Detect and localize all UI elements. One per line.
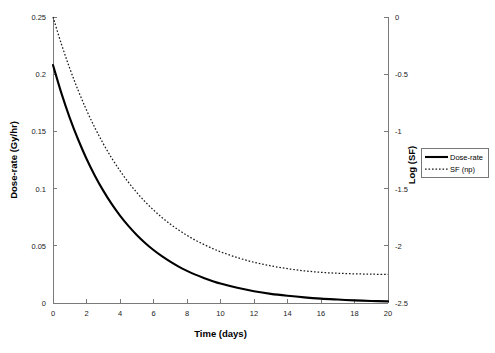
- series-line-sf-np: [53, 17, 388, 274]
- x-axis-title: Time (days): [194, 328, 247, 339]
- x-tick-label: 20: [384, 309, 392, 318]
- y-tick-label-left: 0.05: [31, 242, 46, 251]
- chart-figure: 02468101214161820 00.050.10.150.20.25 -2…: [0, 0, 495, 353]
- x-tick-label: 2: [84, 309, 88, 318]
- y-tick-label-left: 0.2: [36, 70, 46, 79]
- y-tick-label-right: -0.5: [395, 70, 408, 79]
- x-tick-label: 14: [283, 309, 291, 318]
- x-tick-label: 0: [51, 309, 55, 318]
- y-tick-label-right: 0: [395, 13, 399, 22]
- x-tick-label: 6: [151, 309, 155, 318]
- chart-legend: Dose-rate SF (np): [421, 148, 488, 177]
- y-tick-label-left: 0.1: [36, 185, 46, 194]
- x-tick-label: 12: [250, 309, 258, 318]
- x-tick-label: 8: [185, 309, 189, 318]
- y-tick-label-right: -2: [395, 242, 402, 251]
- y-tick-label-right: -1: [395, 127, 402, 136]
- y-tick-label-right: -2.5: [395, 299, 408, 308]
- x-axis-ticks: 02468101214161820: [51, 299, 392, 318]
- y-tick-label-left: 0.25: [31, 13, 46, 22]
- y-axis-right-title: Log (SF): [406, 146, 417, 185]
- y-axis-left-title: Dose-rate (Gy/hr): [8, 121, 19, 199]
- legend-label-dose-rate: Dose-rate: [450, 153, 483, 162]
- series-line-dose-rate: [53, 65, 388, 301]
- plot-area: [53, 17, 388, 303]
- x-tick-label: 10: [216, 309, 224, 318]
- y-tick-label-right: -1.5: [395, 185, 408, 194]
- data-series-group: [53, 17, 388, 301]
- chart-canvas: 02468101214161820 00.050.10.150.20.25 -2…: [0, 0, 495, 353]
- y-tick-label-left: 0.15: [31, 127, 46, 136]
- x-tick-label: 4: [118, 309, 122, 318]
- x-tick-label: 16: [317, 309, 325, 318]
- y-tick-label-left: 0: [42, 299, 46, 308]
- legend-label-sf-np: SF (np): [450, 165, 476, 174]
- x-tick-label: 18: [350, 309, 358, 318]
